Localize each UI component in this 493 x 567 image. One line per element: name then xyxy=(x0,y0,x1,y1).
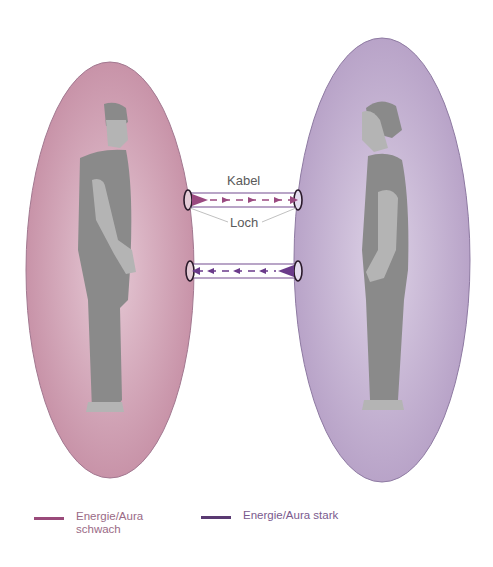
legend-line-weak xyxy=(34,517,64,520)
aura-diagram xyxy=(0,0,493,567)
cable-label: Kabel xyxy=(227,173,260,188)
legend-item-weak: Energie/Aura schwach xyxy=(34,510,156,536)
hole-pointer-right xyxy=(262,208,296,222)
legend-item-strong: Energie/Aura stark xyxy=(201,509,383,522)
hole-pointer-left xyxy=(190,208,228,222)
legend-label-weak: Energie/Aura schwach xyxy=(76,510,156,536)
hole-label: Loch xyxy=(230,215,258,230)
right-hole-lower xyxy=(294,261,302,281)
legend-label-strong: Energie/Aura stark xyxy=(243,509,383,522)
lower-cable xyxy=(186,261,302,281)
upper-cable xyxy=(184,190,302,210)
legend-line-strong xyxy=(201,516,231,519)
left-hole-upper xyxy=(184,190,192,210)
